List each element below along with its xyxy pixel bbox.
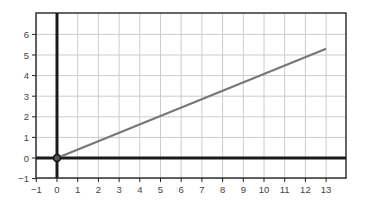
y-tick-label: 2: [24, 111, 29, 122]
x-tick-label: 9: [241, 184, 246, 195]
x-tick-label: 4: [137, 184, 142, 195]
x-tick-label: 6: [179, 184, 184, 195]
x-tick-label: 12: [300, 184, 311, 195]
x-tick-label: 3: [116, 184, 121, 195]
origin-point-marker: [54, 155, 61, 162]
y-tick-label: 0: [24, 153, 29, 164]
x-tick-label: 2: [96, 184, 101, 195]
x-tick-label: 10: [259, 184, 270, 195]
x-tick-label: 0: [54, 184, 59, 195]
y-tick-label: 1: [24, 132, 29, 143]
y-tick-label: 3: [24, 91, 29, 102]
x-tick-label: 13: [321, 184, 332, 195]
zero-axes: [36, 13, 346, 178]
y-tick-label: 4: [24, 70, 29, 81]
x-tick-label: 11: [280, 184, 290, 195]
x-tick-label: 1: [75, 184, 80, 195]
x-tick-label: 5: [158, 184, 163, 195]
series-line: [57, 49, 326, 158]
grid-lines: [36, 13, 346, 179]
x-tick-label: −1: [31, 184, 42, 195]
data-points: [54, 155, 61, 162]
x-tick-label: 8: [220, 184, 225, 195]
y-tick-label: 6: [24, 29, 29, 40]
x-tick-label: 7: [199, 184, 204, 195]
y-tick-label: 5: [24, 50, 29, 61]
data-series: [57, 49, 326, 158]
y-tick-label: −1: [18, 173, 29, 184]
plot-frame: [36, 13, 346, 178]
line-chart: −1012345678910111213−10123456: [0, 0, 366, 203]
